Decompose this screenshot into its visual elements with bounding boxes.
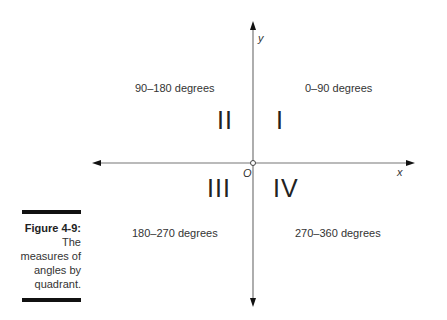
y-axis-label: y	[258, 32, 264, 44]
quadrant-4-numeral: IV	[273, 174, 299, 203]
caption-line: measures of	[0, 249, 81, 263]
y-axis-bottom-arrow-icon	[250, 298, 256, 307]
quadrant-2-range: 90–180 degrees	[135, 82, 215, 94]
x-axis-left-arrow-icon	[92, 160, 101, 166]
quadrant-3-numeral: III	[207, 174, 231, 203]
caption-line: The	[0, 235, 81, 249]
quadrant-1-numeral: I	[276, 106, 284, 135]
figure-label: Figure 4-9:	[25, 222, 81, 234]
caption-line: quadrant.	[0, 277, 81, 291]
x-axis-label: x	[397, 166, 403, 178]
y-axis-top-arrow-icon	[250, 21, 256, 30]
x-axis-right-arrow-icon	[406, 160, 415, 166]
caption-bottom-rule	[22, 298, 81, 302]
origin-label: O	[243, 167, 252, 179]
caption-top-rule	[22, 210, 81, 214]
quadrant-3-range: 180–270 degrees	[132, 227, 218, 239]
figure-caption: Figure 4-9: The measures of angles by qu…	[0, 221, 81, 291]
quadrant-2-numeral: II	[217, 106, 233, 135]
quadrant-1-range: 0–90 degrees	[305, 82, 372, 94]
quadrant-4-range: 270–360 degrees	[295, 227, 381, 239]
origin-point-icon	[251, 161, 256, 166]
caption-line: angles by	[0, 263, 81, 277]
